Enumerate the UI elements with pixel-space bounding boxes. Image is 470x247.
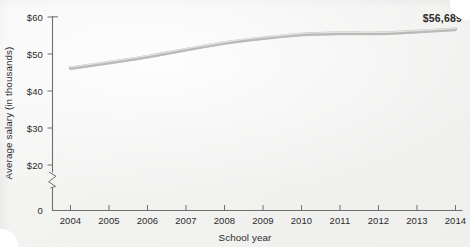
y-axis-title: Average salary (in thousands): [3, 47, 14, 180]
y-tick-label-30: $30: [27, 123, 43, 134]
series-line-average-salary: [71, 29, 456, 68]
x-tick-label-2009: 2009: [252, 215, 274, 226]
series-group-average-salary: [71, 28, 456, 69]
x-tick-label-2010: 2010: [291, 215, 313, 226]
endpoint-value-label: $56,689: [423, 12, 462, 24]
x-tick-label-2004: 2004: [60, 215, 82, 226]
x-tick-label-2014: 2014: [445, 215, 467, 226]
x-tick-label-2013: 2013: [406, 215, 428, 226]
x-tick-label-2008: 2008: [214, 215, 236, 226]
y-tick-label-40: $40: [27, 86, 43, 97]
x-axis-title: School year: [219, 232, 272, 243]
y-tick-label-60: $60: [27, 12, 43, 23]
x-tick-label-2011: 2011: [330, 215, 351, 226]
x-tick-label-2006: 2006: [137, 215, 159, 226]
chart-container: Average salary (in thousands) $60 $50 $4…: [0, 0, 470, 247]
x-tick-label-2012: 2012: [368, 215, 390, 226]
x-tick-label-2007: 2007: [175, 215, 197, 226]
line-chart: Average salary (in thousands) $60 $50 $4…: [0, 0, 470, 247]
y-tick-label-0: 0: [38, 205, 43, 216]
y-axis-break-icon: [49, 172, 56, 188]
y-tick-label-50: $50: [27, 49, 43, 60]
x-tick-label-2005: 2005: [98, 215, 120, 226]
y-tick-label-20: $20: [27, 160, 43, 171]
